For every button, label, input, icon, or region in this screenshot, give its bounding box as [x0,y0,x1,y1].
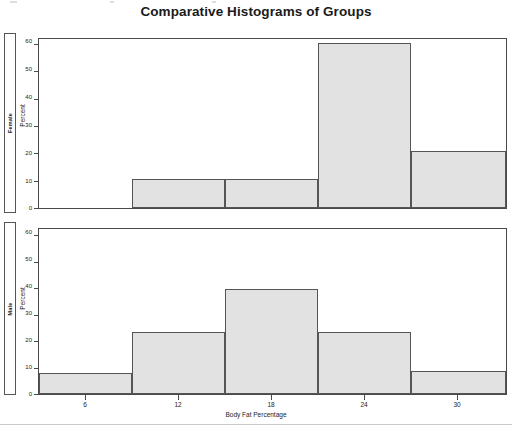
y-tick-female-60: 60 [18,38,32,44]
x-tickmark-30 [457,395,458,400]
plot-area-female [38,38,507,209]
bar-female-3 [318,43,411,208]
bar-male-3 [225,289,318,394]
y-tick-male-0: 0 [18,391,32,397]
y-tick-male-10: 10 [18,364,32,370]
bar-male-5 [411,371,506,394]
x-tickmark-12 [178,395,179,400]
y-tick-female-40: 40 [18,94,32,100]
x-tick-label-18: 18 [261,401,281,408]
x-tick-label-30: 30 [447,401,467,408]
plot-area-male [38,228,507,395]
x-tick-label-24: 24 [354,401,374,408]
bar-male-4 [318,332,411,394]
x-tickmark-24 [364,395,365,400]
bar-male-2 [132,332,225,394]
y-tick-female-0: 0 [18,205,32,211]
group-strip-female: Female [4,33,16,213]
y-tick-male-60: 60 [18,229,32,235]
y-tick-female-50: 50 [18,66,32,72]
page-edge-line [0,424,512,425]
bar-male-1 [39,373,132,394]
group-strip-male: Male [4,222,16,395]
bar-female-1 [132,179,225,208]
y-tick-male-40: 40 [18,283,32,289]
y-tick-male-50: 50 [18,256,32,262]
page-title: Comparative Histograms of Groups [0,4,512,19]
y-tick-male-30: 30 [18,310,32,316]
group-strip-male-label: Male [7,302,13,315]
y-tick-female-30: 30 [18,122,32,128]
x-axis-title: Body Fat Percentage [0,411,512,418]
x-tick-label-12: 12 [168,401,188,408]
scan-artifact-2 [110,1,114,3]
bar-female-2 [225,179,318,208]
y-tick-female-20: 20 [18,150,32,156]
scan-artifact-1 [10,1,17,3]
bar-female-4 [411,151,506,208]
figure-canvas: Comparative Histograms of Groups Female … [0,0,512,428]
y-axis-title-female: Percent [19,96,26,136]
x-tickmark-18 [271,395,272,400]
scan-artifact-3 [212,1,216,3]
group-strip-female-label: Female [7,113,13,133]
y-tick-male-20: 20 [18,337,32,343]
x-tickmark-6 [85,395,86,400]
x-tick-label-6: 6 [75,401,95,408]
y-tick-female-10: 10 [18,178,32,184]
